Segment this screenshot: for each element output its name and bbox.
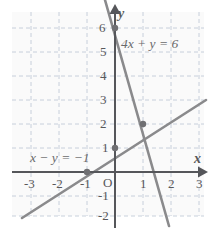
y-tick-5: 5: [100, 45, 107, 58]
y-axis-label: y: [118, 7, 124, 21]
origin-label: O: [103, 176, 112, 189]
equation-label-x-minus-y: x − y = −1: [30, 151, 90, 165]
y-tick-6: 6: [99, 21, 106, 34]
y-tick-4: 4: [100, 69, 107, 82]
y-tick-neg2: -2: [98, 209, 109, 222]
coordinate-graph: 6 5 4 3 2 1 -1 -2 -3 -2 -1 1 2 3 O x y 4…: [0, 0, 216, 238]
x-tick-neg2: -2: [52, 177, 63, 190]
x-tick-3: 3: [196, 177, 203, 190]
x-axis-label: x: [194, 152, 201, 166]
y-tick-3: 3: [100, 93, 107, 106]
x-tick-2: 2: [168, 177, 175, 190]
point-neg1-0: [84, 169, 90, 175]
y-tick-2: 2: [100, 117, 107, 130]
y-tick-1: 1: [102, 141, 109, 154]
point-0-6: [112, 25, 118, 31]
x-tick-neg3: -3: [24, 177, 35, 190]
y-tick-neg1: -1: [98, 189, 109, 202]
equation-label-4x-plus-y: 4x + y = 6: [121, 37, 178, 51]
x-tick-1: 1: [140, 177, 147, 190]
point-1-2: [140, 121, 146, 127]
point-0-1: [112, 145, 118, 151]
x-tick-neg1: -1: [80, 177, 91, 190]
